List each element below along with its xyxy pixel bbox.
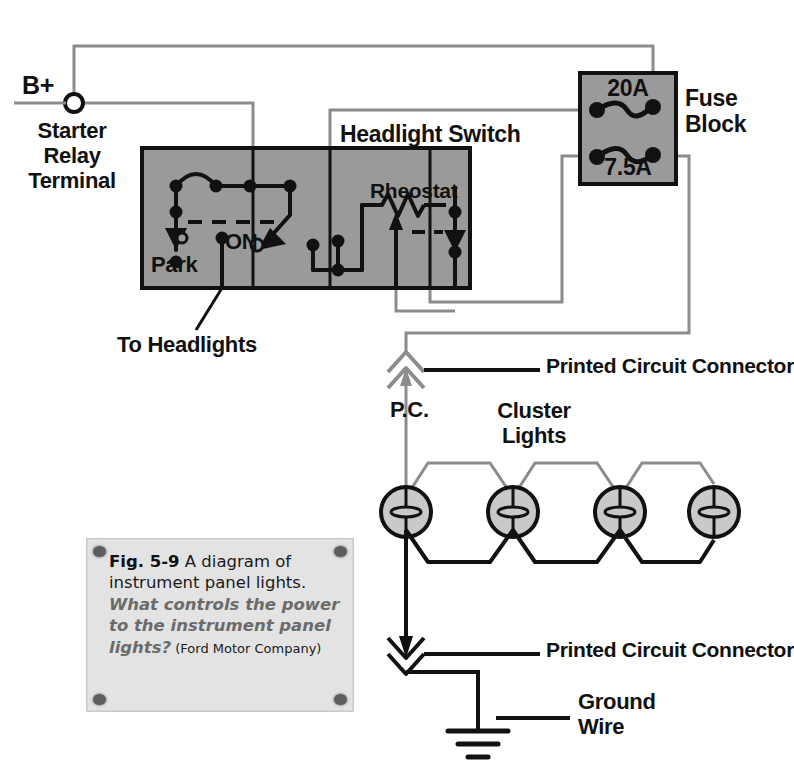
label-printed-circuit-connector-top: Printed Circuit Connector: [546, 355, 794, 378]
cluster-light-bulbs: [381, 487, 739, 537]
label-fuse-block: Fuse Block: [685, 85, 746, 137]
cluster-light-bulb: [689, 487, 739, 537]
screw-icon: [93, 546, 106, 557]
leader-to-headlights: [196, 288, 222, 330]
caption-figure-number: Fig. 5-9: [109, 552, 180, 571]
ground-symbol: [448, 731, 508, 757]
label-headlight-switch: Headlight Switch: [340, 122, 521, 147]
label-to-headlights: To Headlights: [117, 333, 257, 357]
label-park: Park: [151, 253, 198, 277]
printed-circuit-connector-bottom-icon: [388, 636, 424, 674]
wire-to-ground: [406, 672, 478, 730]
label-starter-relay-terminal: Starter Relay Terminal: [8, 118, 136, 193]
starter-relay-terminal-node: [65, 94, 83, 112]
label-ground-wire: Ground Wire: [578, 689, 656, 739]
label-fuse-7p5a: 7.5A: [586, 155, 670, 180]
screw-icon: [93, 694, 106, 705]
label-b-plus: B+: [22, 72, 54, 99]
label-pc: P.C.: [390, 398, 429, 422]
label-rheostat: Rheostat: [370, 180, 457, 203]
screw-icon: [334, 694, 347, 705]
label-on: ON: [225, 230, 257, 254]
wire-cluster-bottom-bus: [406, 530, 714, 562]
label-cluster-lights: Cluster Lights: [470, 398, 598, 448]
label-printed-circuit-connector-bottom: Printed Circuit Connector: [546, 639, 794, 662]
cluster-light-bulb: [381, 487, 431, 537]
figure-caption-text: Fig. 5-9 A diagram of instrument panel l…: [109, 551, 341, 658]
label-fuse-20a: 20A: [590, 76, 666, 101]
caption-credit: (Ford Motor Company): [171, 641, 321, 656]
figure-caption-box: Fig. 5-9 A diagram of instrument panel l…: [86, 538, 354, 712]
